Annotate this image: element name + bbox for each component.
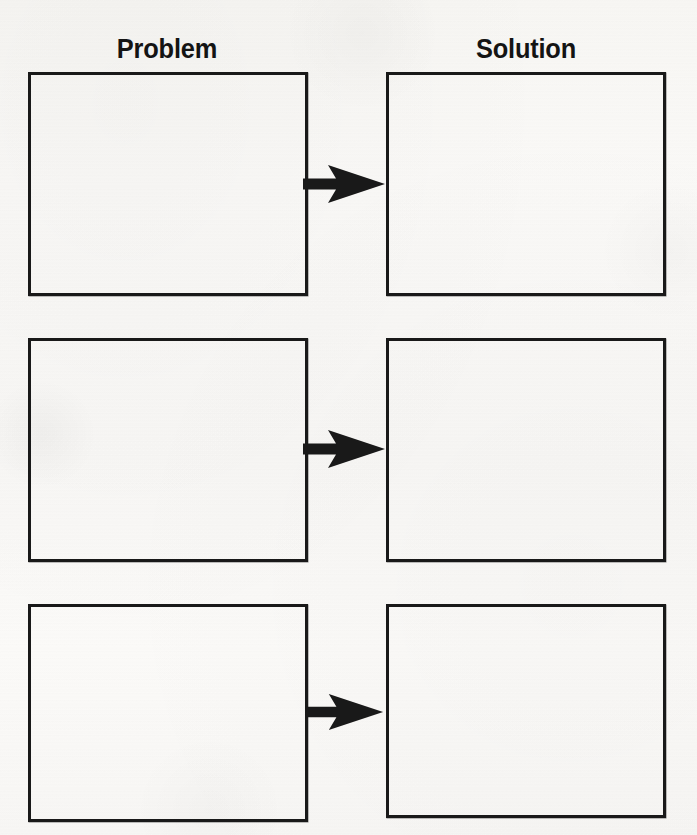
right-arrow-icon-row-1	[303, 163, 387, 205]
solution-box-row-3[interactable]	[386, 604, 666, 818]
problem-box-row-3[interactable]	[28, 604, 308, 822]
problem-box-row-2[interactable]	[28, 338, 308, 562]
worksheet-page: Problem Solution	[0, 0, 697, 835]
solution-box-row-1[interactable]	[386, 72, 666, 296]
column-heading-solution: Solution	[413, 32, 639, 66]
column-heading-problem: Problem	[54, 32, 280, 66]
right-arrow-icon-row-3	[305, 692, 385, 732]
solution-box-row-2[interactable]	[386, 338, 666, 562]
right-arrow-icon-row-2	[303, 428, 387, 470]
problem-box-row-1[interactable]	[28, 72, 308, 296]
